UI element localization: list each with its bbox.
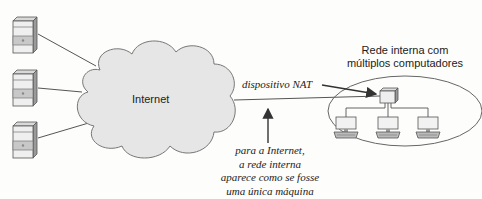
nat-diagram: Internet dispositivo NAT Rede interna co… bbox=[0, 0, 482, 199]
caption-line: aparece como se fosse bbox=[200, 171, 340, 185]
caption-line: para a Internet, bbox=[200, 144, 340, 158]
caption: para a Internet, a rede interna aparece … bbox=[200, 144, 340, 198]
internal-network-label-line: Rede interna com bbox=[343, 44, 467, 57]
server-icon bbox=[13, 70, 37, 106]
computer-icon bbox=[376, 117, 400, 138]
server-icon bbox=[13, 122, 37, 158]
internal-links bbox=[346, 103, 428, 117]
caption-line: a rede interna bbox=[200, 158, 340, 172]
server-icon bbox=[13, 17, 37, 53]
computer-icon bbox=[334, 117, 358, 138]
internal-network-label: Rede interna com múltiplos computadores bbox=[343, 44, 467, 70]
caption-line: uma única máquina bbox=[200, 185, 340, 199]
nat-device-label: dispositivo NAT bbox=[242, 78, 312, 90]
internal-network-label-line: múltiplos computadores bbox=[343, 57, 467, 70]
nat-device-icon bbox=[380, 88, 398, 103]
computer-icon bbox=[416, 117, 440, 138]
internet-label: Internet bbox=[132, 93, 169, 105]
nat-pointer-arrow bbox=[322, 85, 376, 94]
uplink-line bbox=[234, 96, 380, 100]
